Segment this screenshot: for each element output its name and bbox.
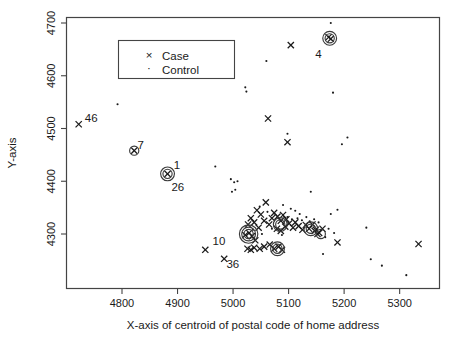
control-point: [346, 136, 348, 138]
control-point: [266, 211, 268, 213]
legend-label-case: Case: [162, 50, 189, 62]
y-axis-title: Y-axis: [6, 137, 18, 168]
point-annotation-label: 10: [213, 235, 226, 247]
x-tick-label: 4900: [165, 297, 189, 309]
control-point: [234, 189, 236, 191]
plot-canvas: 43004400450046004700 4800490050005100520…: [0, 0, 456, 349]
control-point: [245, 91, 247, 93]
control-point: [294, 210, 296, 212]
control-point: [341, 143, 343, 145]
control-point: [330, 213, 332, 215]
y-tick-label: 4300: [45, 222, 57, 246]
control-point: [313, 218, 315, 220]
control-point: [318, 221, 320, 223]
control-point: [305, 216, 307, 218]
scatter-plot-figure: 43004400450046004700 4800490050005100520…: [0, 0, 456, 349]
x-axis-title: X-axis of centroid of postal code of hom…: [127, 319, 380, 331]
legend-symbol-case: ×: [146, 49, 153, 61]
point-annotation-label: 46: [85, 112, 98, 124]
control-point: [117, 103, 119, 105]
legend-symbol-control: ·: [147, 62, 151, 74]
control-point: [370, 258, 372, 260]
control-point: [236, 180, 238, 182]
legend-label-control: Control: [162, 64, 199, 76]
control-point: [310, 191, 312, 193]
control-point: [332, 92, 334, 94]
control-point: [271, 228, 273, 230]
control-point: [286, 133, 288, 135]
control-point: [330, 22, 332, 24]
x-tick-label: 5300: [387, 297, 411, 309]
control-point: [231, 191, 233, 193]
x-tick-label: 4800: [110, 297, 134, 309]
point-annotation-label: 4: [315, 48, 322, 60]
control-point: [336, 209, 338, 211]
y-tick-label: 4600: [45, 64, 57, 88]
point-annotation-label: 7: [138, 139, 144, 151]
x-tick-label: 5000: [221, 297, 245, 309]
y-tick-label: 4500: [45, 116, 57, 140]
control-point: [301, 219, 303, 221]
control-point: [265, 60, 267, 62]
control-point: [290, 208, 292, 210]
control-point: [233, 181, 235, 183]
control-point: [230, 178, 232, 180]
control-point: [333, 232, 335, 234]
legend: × Case · Control: [119, 41, 235, 79]
control-point: [322, 253, 324, 255]
y-tick-label: 4700: [45, 11, 57, 35]
control-point: [281, 234, 283, 236]
control-point: [405, 274, 407, 276]
point-annotation-label: 26: [171, 181, 184, 193]
point-annotation-label: 36: [226, 258, 239, 270]
point-annotation-label: 1: [174, 159, 180, 171]
y-tick-label: 4400: [45, 169, 57, 193]
control-point: [299, 213, 301, 215]
control-point: [244, 86, 246, 88]
control-point: [328, 228, 330, 230]
x-tick-label: 5200: [332, 297, 356, 309]
control-point: [296, 217, 298, 219]
control-point: [261, 233, 263, 235]
control-point: [282, 204, 284, 206]
x-tick-label: 5100: [276, 297, 300, 309]
control-point: [365, 227, 367, 229]
control-point: [381, 265, 383, 267]
control-point: [214, 165, 216, 167]
